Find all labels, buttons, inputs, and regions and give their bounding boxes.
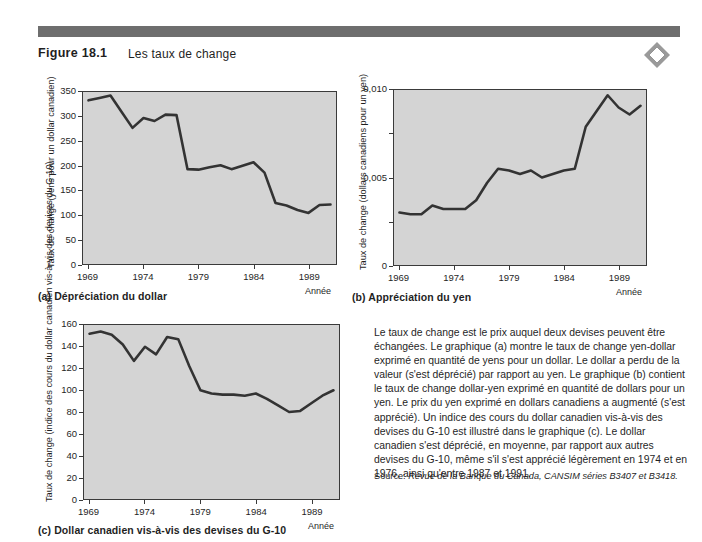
chart-b-x-tick-label: 1969 [377, 272, 421, 283]
chart-b-x-tick-label: 1974 [432, 272, 476, 283]
chart-c-y-tick-label: 100 [33, 384, 77, 395]
chart-c-y-tick-mark [79, 500, 83, 501]
chart-c-y-tick-label: 40 [33, 450, 77, 461]
figure-description-paragraph: Le taux de change est le prix auquel deu… [374, 326, 690, 481]
chart-b-y-tick-mark [389, 178, 393, 179]
chart-b-y-tick-mark [389, 222, 393, 223]
chart-c-plot-area [83, 324, 340, 500]
chart-b-x-tick-mark [399, 266, 400, 270]
chart-c-x-tick-label: 1984 [234, 506, 278, 517]
chart-c-dollar-canadien-g10: Taux de change (indice des cours du doll… [0, 0, 360, 542]
chart-b-x-tick-mark [509, 266, 510, 270]
chart-b-y-tick-mark [389, 89, 393, 90]
source-value: Revue de la Banque du Canada, CANSIM sér… [406, 471, 678, 481]
chart-b-x-axis-label: Année [616, 287, 642, 297]
chart-c-x-tick-mark [89, 500, 90, 504]
chart-c-y-tick-label: 160 [33, 318, 77, 329]
figure-page: Figure 18.1 Les taux de change Taux de c… [0, 0, 702, 542]
chart-c-y-tick-mark [79, 434, 83, 435]
chart-c-x-tick-mark [144, 500, 145, 504]
chart-c-data-line [90, 332, 334, 412]
chart-b-y-tick-mark [389, 133, 393, 134]
chart-c-x-tick-mark [200, 500, 201, 504]
chart-c-caption: (c) Dollar canadien vis-à-vis des devise… [38, 524, 286, 536]
chart-b-x-tick-label: 1984 [542, 272, 586, 283]
chart-c-y-tick-label: 120 [33, 362, 77, 373]
chart-c-y-tick-label: 80 [33, 406, 77, 417]
chart-c-x-tick-label: 1979 [178, 506, 222, 517]
chart-c-y-tick-mark [79, 346, 83, 347]
chart-c-x-tick-mark [256, 500, 257, 504]
chart-c-x-tick-mark [312, 500, 313, 504]
chart-c-y-tick-label: 0 [33, 494, 77, 505]
chart-b-x-tick-mark [454, 266, 455, 270]
chart-c-x-axis-label: Année [308, 521, 334, 531]
chart-b-x-tick-label: 1989 [597, 272, 641, 283]
chart-c-y-tick-mark [79, 478, 83, 479]
chart-c-y-tick-label: 20 [33, 472, 77, 483]
chart-b-x-tick-label: 1979 [487, 272, 531, 283]
chart-b-y-tick-mark [389, 266, 393, 267]
chart-c-x-tick-label: 1969 [67, 506, 111, 517]
chart-c-x-tick-label: 1974 [122, 506, 166, 517]
chart-c-y-tick-mark [79, 456, 83, 457]
chart-c-y-tick-label: 60 [33, 428, 77, 439]
chart-b-x-tick-mark [619, 266, 620, 270]
chart-c-y-tick-mark [79, 368, 83, 369]
chart-c-y-tick-mark [79, 412, 83, 413]
chart-b-data-line [399, 95, 640, 214]
figure-source-note: Source: Revue de la Banque du Canada, CA… [374, 470, 694, 482]
chart-c-x-tick-label: 1989 [290, 506, 334, 517]
chart-c-y-tick-label: 140 [33, 340, 77, 351]
chart-c-y-tick-mark [79, 390, 83, 391]
chart-b-plot-area [393, 89, 647, 266]
source-label: Source: [374, 471, 406, 481]
chart-b-caption: (b) Appréciation du yen [352, 291, 471, 303]
chart-c-y-tick-mark [79, 324, 83, 325]
chart-b-x-tick-mark [564, 266, 565, 270]
